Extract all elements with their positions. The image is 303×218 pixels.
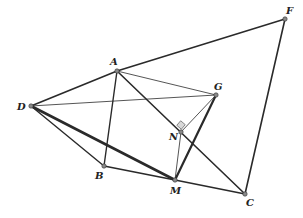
- point-G: [214, 93, 218, 97]
- right-angle-marker: [177, 121, 185, 129]
- label-N: N: [168, 131, 179, 142]
- label-M: M: [169, 185, 182, 196]
- point-D: [29, 104, 33, 108]
- segment-BM: [104, 166, 175, 180]
- segments: [31, 19, 285, 194]
- segment-MG: [175, 95, 216, 180]
- segment-DG: [31, 95, 216, 106]
- segment-FC: [245, 19, 285, 194]
- label-A: A: [109, 56, 118, 67]
- geometry-diagram: ADBMCGNF: [0, 0, 303, 218]
- point-F: [283, 17, 287, 21]
- segment-AG: [117, 71, 216, 95]
- segment-NG: [181, 95, 216, 132]
- segment-AB: [104, 71, 117, 166]
- label-C: C: [246, 197, 254, 208]
- point-N: [179, 130, 183, 134]
- label-F: F: [285, 5, 294, 16]
- segment-AF: [117, 19, 285, 71]
- label-D: D: [16, 101, 26, 112]
- label-B: B: [94, 170, 103, 181]
- segment-DA: [31, 71, 117, 106]
- point-C: [243, 192, 247, 196]
- point-B: [102, 164, 106, 168]
- point-M: [173, 178, 177, 182]
- points: [29, 17, 287, 196]
- label-G: G: [214, 81, 223, 92]
- point-A: [115, 69, 119, 73]
- segment-DM: [31, 106, 175, 180]
- segment-MC: [175, 180, 245, 194]
- segment-DB: [31, 106, 104, 166]
- right-angle-icon: [177, 121, 185, 129]
